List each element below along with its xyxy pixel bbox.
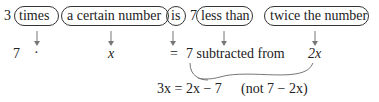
trans-7: 7 (13, 46, 20, 62)
label-is: is (171, 8, 180, 24)
trans-dot: · (34, 45, 39, 61)
equation: 3x = 2x − 7 (157, 81, 222, 97)
label-times: times (19, 8, 49, 24)
label-twice-number: twice the number (270, 8, 367, 24)
trans-2x: 2x (308, 46, 321, 62)
trans-eq: = (170, 46, 178, 62)
trans-sub: 7 subtracted from (186, 46, 285, 62)
label-less-than: less than (201, 8, 250, 24)
label-certain-number: a certain number (67, 8, 161, 24)
number-3: 3 (4, 8, 11, 24)
equation-note: (not 7 − 2x) (241, 81, 308, 97)
trans-x: x (108, 46, 114, 62)
